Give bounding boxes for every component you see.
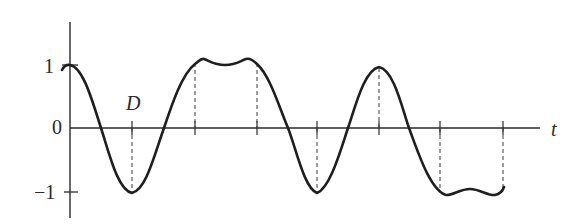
y-label-1: 1 <box>44 55 54 77</box>
t-axis-label: t <box>551 118 557 140</box>
y-label-0: 0 <box>52 116 62 138</box>
waveform-curve <box>62 59 504 195</box>
point-label-d: D <box>125 92 141 114</box>
y-label-minus-1: −1 <box>34 181 55 203</box>
waveform-diagram: 1 0 −1 D t <box>0 0 586 224</box>
